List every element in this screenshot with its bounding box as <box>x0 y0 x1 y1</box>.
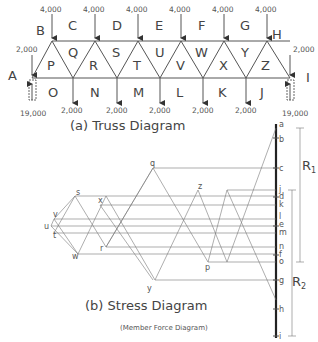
point-label: v <box>53 210 58 219</box>
space-label: H <box>272 27 282 42</box>
space-label: L <box>176 85 184 100</box>
end-load-left: 2,000 <box>16 45 38 54</box>
load-line-label: k <box>279 200 284 209</box>
point-label: z <box>198 182 202 191</box>
point-label: y <box>147 284 152 293</box>
load-label: 2,000 <box>106 106 128 115</box>
load-label: 4,000 <box>169 5 191 14</box>
panel-label: V <box>176 58 185 73</box>
load-label: 4,000 <box>83 5 105 14</box>
panel-label: Y <box>240 45 249 60</box>
right-support <box>287 80 294 100</box>
panel-label: U <box>155 45 165 60</box>
truss-diagram: 4,000 4,000 4,000 4,000 4,000 4,000 2,00… <box>8 5 315 133</box>
panel-label: Q <box>68 45 78 60</box>
space-label: J <box>259 85 264 100</box>
stress-caption: (b) Stress Diagram <box>85 298 207 313</box>
load-line-label: o <box>279 257 284 266</box>
space-label: I <box>306 70 310 85</box>
panel-label: W <box>195 45 208 60</box>
panel-label: X <box>219 58 228 73</box>
space-label: M <box>133 85 144 100</box>
point-label: t <box>53 231 56 240</box>
load-label: 2,000 <box>192 106 214 115</box>
stress-diagram: a b c j d k l e m n f o g h i q s x v u … <box>44 120 316 341</box>
load-label: 4,000 <box>212 5 234 14</box>
panel-label: T <box>132 58 141 73</box>
space-label: C <box>68 18 77 33</box>
load-line-label: g <box>279 276 284 285</box>
load-label: 2,000 <box>61 106 83 115</box>
stress-subcaption: (Member Force Diagram) <box>120 324 208 332</box>
load-label: 2,000 <box>235 106 257 115</box>
space-label: A <box>8 68 17 83</box>
point-label: r <box>100 244 104 253</box>
space-label: O <box>48 85 58 100</box>
load-label: 4,000 <box>40 5 62 14</box>
reaction-right: 19,000 <box>282 109 308 118</box>
left-support <box>29 80 36 100</box>
load-label: 4,000 <box>255 5 277 14</box>
reaction-left: 19,000 <box>20 109 46 118</box>
panel-label: Z <box>261 58 270 73</box>
point-label: q <box>150 159 155 168</box>
panel-label: P <box>47 58 55 73</box>
space-label: E <box>155 18 163 33</box>
load-label: 2,000 <box>149 106 171 115</box>
panel-label: S <box>112 45 120 60</box>
end-load-right: 2,000 <box>293 45 315 54</box>
space-label: B <box>36 23 45 38</box>
space-label: N <box>90 85 100 100</box>
space-label: K <box>218 85 227 100</box>
diagonal-members <box>51 128 276 300</box>
space-label: F <box>198 18 205 33</box>
load-line-label: h <box>279 305 284 314</box>
load-line-label: a <box>279 120 284 129</box>
load-line-label: i <box>279 332 281 341</box>
point-label: p <box>205 263 210 272</box>
load-line-label: c <box>279 164 283 173</box>
space-label: G <box>240 18 250 33</box>
point-label: s <box>76 188 80 197</box>
truss-caption: (a) Truss Diagram <box>70 118 185 133</box>
point-label: x <box>98 196 103 205</box>
space-label: D <box>112 18 122 33</box>
point-label: u <box>44 222 49 231</box>
load-line-label: b <box>279 135 284 144</box>
point-label: w <box>72 252 79 261</box>
reaction-r2-label: R2 <box>292 274 306 291</box>
load-line-label: m <box>279 228 287 237</box>
panel-label: R <box>89 58 98 73</box>
load-label: 4,000 <box>126 5 148 14</box>
truss-and-stress-diagram: 4,000 4,000 4,000 4,000 4,000 4,000 2,00… <box>0 0 318 342</box>
reaction-r1-label: R1 <box>302 158 316 175</box>
